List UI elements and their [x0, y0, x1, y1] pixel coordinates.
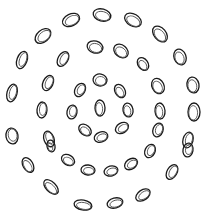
oval-shape: [40, 74, 56, 93]
oval-shape: [93, 130, 110, 144]
oval-shape: [164, 163, 181, 182]
oval-shape: [92, 7, 112, 23]
oval-shape: [72, 81, 88, 98]
oval-shape: [154, 103, 165, 120]
oval-rings-illustration: [0, 0, 203, 219]
oval-shape: [149, 76, 167, 96]
oval-shape: [95, 100, 106, 116]
oval-shape: [135, 55, 151, 72]
oval-shape: [59, 152, 76, 168]
oval-shape: [73, 199, 92, 212]
oval-shape: [41, 177, 61, 197]
oval-shape: [14, 50, 30, 70]
oval-shape: [122, 10, 144, 29]
oval-shape: [122, 102, 134, 118]
oval-shape: [186, 76, 201, 94]
oval-shape: [42, 130, 57, 148]
oval-shape: [112, 82, 128, 99]
oval-shape: [36, 102, 47, 119]
oval-shape: [134, 186, 153, 203]
oval-shape: [66, 104, 78, 120]
oval-shape: [143, 143, 158, 160]
oval-shape: [150, 23, 171, 45]
oval-shape: [76, 122, 93, 139]
oval-shape: [122, 156, 139, 172]
oval-shape: [113, 120, 130, 136]
oval-shape: [188, 103, 200, 121]
oval-shape: [92, 73, 108, 87]
oval-shape: [55, 50, 72, 69]
oval-shape: [111, 41, 131, 60]
oval-shape: [151, 122, 165, 139]
oval-shape: [86, 39, 105, 55]
oval-shape: [81, 164, 96, 175]
concentric-oval-pattern: [0, 0, 203, 219]
oval-shape: [172, 47, 189, 66]
oval-shape: [103, 164, 119, 177]
oval-shape: [106, 196, 124, 210]
oval-shape: [5, 83, 19, 103]
oval-shape: [20, 156, 37, 175]
oval-shape: [5, 127, 20, 145]
oval-shape: [60, 11, 81, 29]
oval-shape: [32, 26, 54, 47]
